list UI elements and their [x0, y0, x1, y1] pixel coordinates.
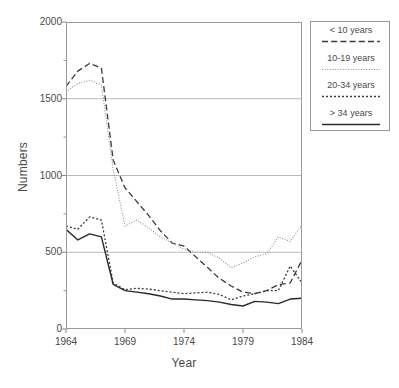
legend-line-sample — [322, 123, 380, 126]
legend-line-sample — [322, 40, 380, 43]
plot-area — [66, 22, 302, 329]
legend-label: 10-19 years — [311, 53, 391, 63]
y-axis-tick-labels: 0500100015002000 — [18, 0, 62, 388]
x-tick-label: 1969 — [102, 336, 148, 347]
y-tick-label: 0 — [22, 324, 62, 334]
line-chart-figure: Numbers 0500100015002000 196419691974197… — [0, 0, 399, 388]
plot-frame-border — [66, 22, 302, 329]
x-tick-label: 1984 — [279, 336, 325, 347]
legend-line-sample — [322, 95, 380, 98]
legend-line-sample — [322, 68, 380, 71]
legend-entry[interactable]: > 34 years — [311, 108, 391, 134]
y-tick-label: 1000 — [22, 171, 62, 181]
y-tick-label: 500 — [22, 247, 62, 257]
legend-label: < 10 years — [311, 25, 391, 35]
legend-label: > 34 years — [311, 108, 391, 118]
y-tick-label: 1500 — [22, 94, 62, 104]
legend-label: 20-34 years — [311, 80, 391, 90]
legend-entry[interactable]: 10-19 years — [311, 53, 391, 79]
x-tick-label: 1964 — [43, 336, 89, 347]
legend-entry[interactable]: < 10 years — [311, 25, 391, 51]
x-tick-label: 1974 — [161, 336, 207, 347]
legend-box: < 10 years10-19 years20-34 years> 34 yea… — [310, 21, 390, 131]
legend-entry[interactable]: 20-34 years — [311, 80, 391, 106]
x-axis-title: Year — [66, 356, 302, 370]
y-tick-label: 2000 — [22, 17, 62, 27]
x-tick-label: 1979 — [220, 336, 266, 347]
